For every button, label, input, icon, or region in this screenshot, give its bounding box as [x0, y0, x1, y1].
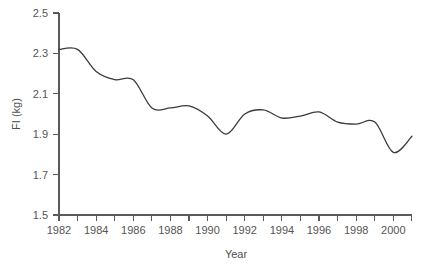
- y-axis-tick-labels: 1.5 1.7 1.9 2.1 2.3 2.5: [33, 7, 48, 221]
- chart-figure: 1.5 1.7 1.9 2.1 2.3 2.5: [0, 0, 426, 270]
- y-tick-label: 1.9: [33, 128, 48, 140]
- x-tick-label: 1986: [121, 224, 145, 236]
- x-tick-label: 1992: [232, 224, 256, 236]
- y-tick-label: 2.1: [33, 88, 48, 100]
- y-axis-ticks: [53, 13, 59, 215]
- x-tick-label: 1990: [195, 224, 219, 236]
- x-tick-label: 1984: [84, 224, 108, 236]
- y-tick-label: 1.7: [33, 169, 48, 181]
- x-axis-ticks: [59, 215, 412, 221]
- y-tick-label: 2.3: [33, 47, 48, 59]
- x-tick-label: 2000: [381, 224, 405, 236]
- line-chart-canvas: 1.5 1.7 1.9 2.1 2.3 2.5: [0, 0, 426, 270]
- x-axis-title: Year: [225, 248, 248, 260]
- x-axis-tick-labels: 1982 1984 1986 1988 1990 1992 1994 1996 …: [47, 224, 406, 236]
- x-tick-label: 1998: [344, 224, 368, 236]
- x-tick-label: 1982: [47, 224, 71, 236]
- x-tick-label: 1988: [158, 224, 182, 236]
- y-tick-label: 2.5: [33, 7, 48, 19]
- y-axis-title: FI (kg): [10, 98, 22, 130]
- y-tick-label: 1.5: [33, 209, 48, 221]
- x-tick-label: 1996: [307, 224, 331, 236]
- x-tick-label: 1994: [270, 224, 294, 236]
- data-series-line: [59, 48, 412, 153]
